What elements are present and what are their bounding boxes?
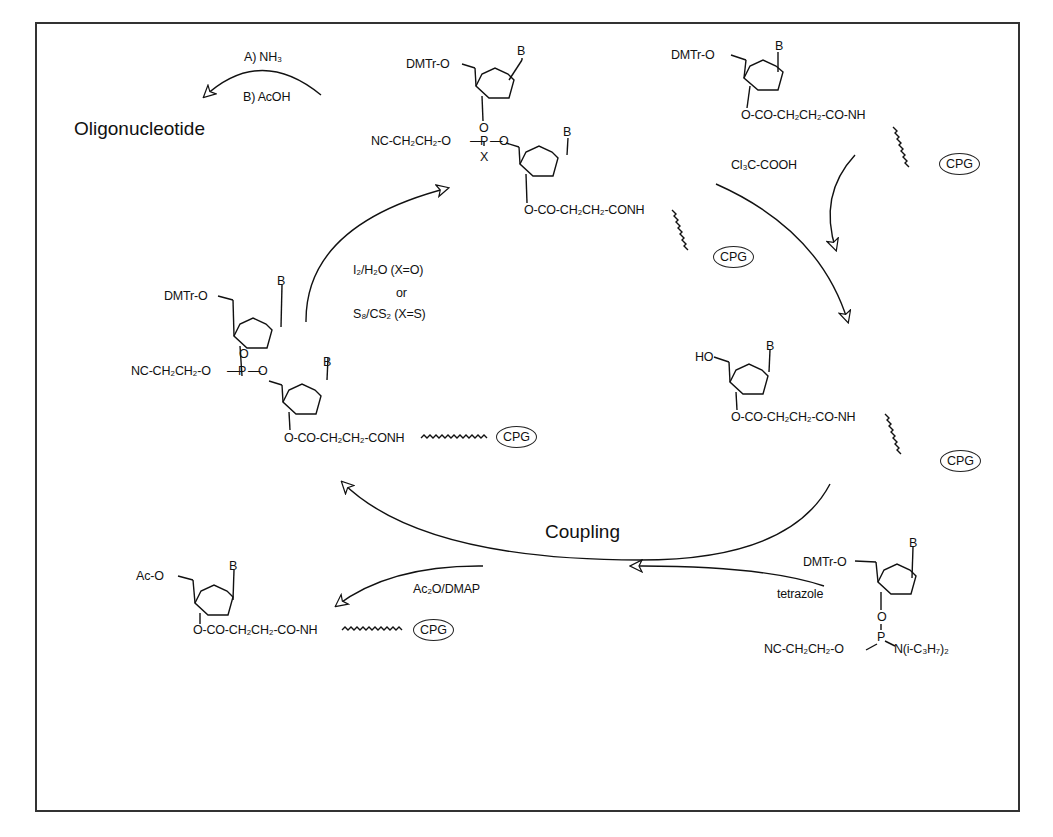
protecting-group: DMTr-O [803, 555, 846, 569]
reagent-detritylation: Cl₃C-COOH [731, 158, 797, 172]
base-1: B [517, 44, 525, 58]
cpg-support: CPG [413, 619, 454, 641]
base-2: B [323, 355, 331, 369]
product-label: Oligonucleotide [74, 118, 205, 140]
phosphorus: P [238, 364, 246, 378]
wavy-linker-start [893, 127, 909, 167]
wavy-linker-capped [342, 627, 402, 630]
protecting-group: DMTr-O [164, 289, 207, 303]
cycle-arrow-oxidation [306, 188, 448, 322]
linker: O-CO-CH₂CH₂-CO-NH [741, 108, 865, 122]
reagent-tetrazole: tetrazole [777, 587, 823, 601]
base: B [766, 339, 774, 353]
reagent-nh3: A) NH₃ [244, 50, 282, 64]
linker: O-CO-CH₂CH₂-CONH [284, 431, 404, 445]
sugar-ring-detritylated [714, 350, 770, 410]
sugar-ring-phosphate-2 [506, 138, 568, 203]
oxygen-5: O [499, 134, 509, 148]
base-2: B [563, 125, 571, 139]
detritylation-side-arrow [830, 155, 855, 250]
sugar-ring-phosphoramidite [855, 547, 916, 650]
diisopropylamine: N(i-C₃H₇)₂ [894, 642, 949, 656]
protecting-group: DMTr-O [406, 57, 449, 71]
reagent-capping: Ac₂O/DMAP [413, 582, 480, 596]
hydroxyl: HO [695, 350, 713, 364]
linker: O-CO-CH₂CH₂-CONH [524, 203, 644, 217]
wavy-linker-phosphite [421, 435, 487, 438]
oxygen-5: O [258, 364, 268, 378]
cpg-support: CPG [713, 246, 754, 268]
base: B [909, 536, 917, 550]
cyanoethyl: NC-CH₂CH₂-O [764, 642, 844, 656]
cyanoethyl: NC-CH₂CH₂-O [371, 134, 451, 148]
phosphorus: P [480, 134, 488, 148]
cycle-label-coupling: Coupling [545, 521, 620, 543]
oxygen-3: O [479, 121, 489, 135]
reagent-oxidation-or: or [396, 286, 407, 300]
oxygen-3: O [239, 347, 249, 361]
sugar-ring-capped [178, 570, 234, 624]
x-atom: X [480, 150, 488, 164]
wavy-linker-detritylated [885, 414, 901, 454]
linker: O-CO-CH₂CH₂-CO-NH [193, 623, 317, 637]
reagent-oxidation-line2: S₈/CS₂ (X=S) [353, 307, 426, 321]
base: B [775, 39, 783, 53]
reagent-oxidation-line1: I₂/H₂O (X=O) [353, 263, 423, 277]
tetrazole-arrow [631, 566, 824, 586]
cpg-support: CPG [496, 426, 537, 448]
protecting-group: DMTr-O [671, 48, 714, 62]
reagent-acoh: B) AcOH [243, 90, 290, 104]
linker: O-CO-CH₂CH₂-CO-NH [731, 410, 855, 424]
sugar-ring-phosphite-2 [269, 358, 328, 430]
cpg-support: CPG [939, 153, 980, 175]
sugar-ring-start [731, 52, 783, 108]
base-1: B [277, 274, 285, 288]
base: B [229, 559, 237, 573]
cpg-support: CPG [940, 450, 981, 472]
wavy-linker-phosphate [672, 210, 688, 250]
cyanoethyl: NC-CH₂CH₂-O [131, 364, 211, 378]
phosphorus: P [877, 630, 885, 644]
sugar-ring-phosphite-1 [218, 285, 282, 376]
sugar-ring-phosphate-1 [462, 58, 522, 121]
oxygen-3: O [877, 610, 887, 624]
acetyl-group: Ac-O [136, 569, 164, 583]
